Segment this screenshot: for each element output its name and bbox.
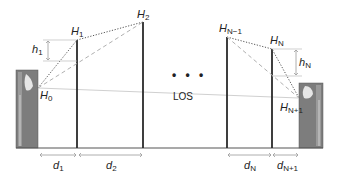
label-h1: H1	[71, 26, 83, 39]
dn1-arrow	[273, 153, 298, 157]
d1-arrow	[40, 153, 76, 157]
hn-arrow	[294, 50, 298, 75]
label-hn+1: HN+1	[280, 102, 303, 115]
d2-arrow	[79, 153, 142, 157]
los-label: LOS	[173, 92, 193, 102]
relay-diagram: H0 H1 H2 HN−1 HN HN+1 h1 hN d1 d2 dN dN+…	[0, 0, 338, 180]
dn-arrow	[228, 153, 271, 157]
dashed-h0-h2	[38, 22, 143, 88]
h1-arrow	[46, 41, 50, 60]
label-h0: H0	[40, 90, 52, 103]
label-hn: HN	[270, 35, 284, 48]
label-h1-height: h1	[32, 44, 43, 57]
label-d1: d1	[53, 160, 64, 173]
label-dn+1: dN+1	[277, 160, 298, 173]
label-dn: dN	[244, 160, 256, 173]
ellipsis: • • •	[172, 68, 206, 82]
label-hn-1: HN−1	[219, 23, 242, 36]
right-antenna-image	[299, 83, 323, 148]
left-antenna-image	[16, 70, 38, 148]
label-hn-height: hN	[299, 57, 311, 70]
label-h2: H2	[137, 9, 149, 22]
label-d2: d2	[106, 160, 117, 173]
